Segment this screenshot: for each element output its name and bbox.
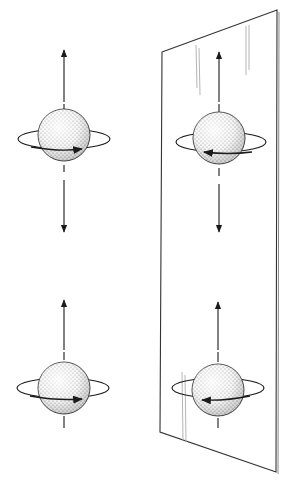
sphere-left-bottom bbox=[17, 300, 109, 428]
mirror-thickness-edge bbox=[278, 12, 279, 474]
sphere-left-top bbox=[18, 50, 110, 232]
diagram-canvas bbox=[0, 0, 284, 484]
parity-mirror-diagram bbox=[0, 0, 284, 484]
